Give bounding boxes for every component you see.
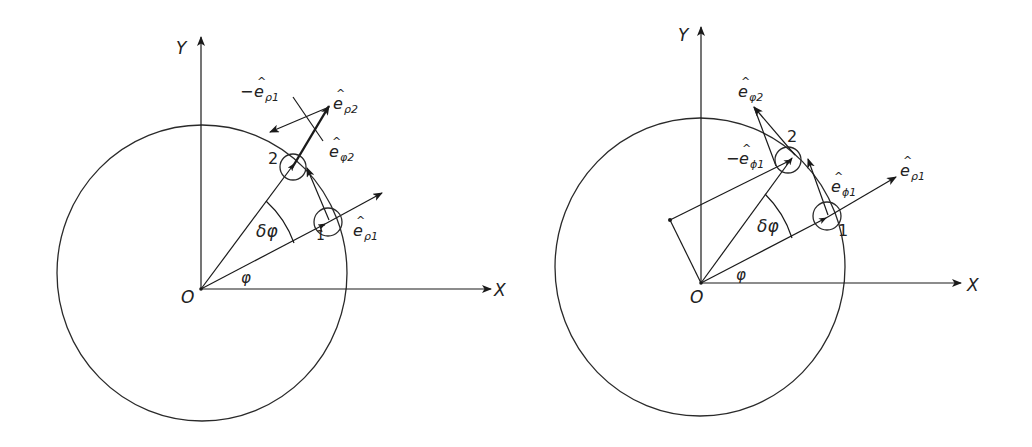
svg-text:ρ1: ρ1: [265, 91, 279, 104]
svg-text:−: −: [240, 82, 253, 101]
left-e-phi2-pointer-line: [293, 97, 323, 141]
svg-text:e: e: [900, 161, 910, 180]
svg-text:ϕ1: ϕ1: [842, 186, 856, 199]
svg-text:e: e: [831, 177, 841, 196]
svg-text:e: e: [739, 149, 749, 168]
left-e-rho2-label: ^ e ρ2: [333, 87, 358, 116]
left-point-2-label: 2: [268, 149, 278, 168]
svg-text:e: e: [329, 142, 339, 161]
svg-text:φ2: φ2: [340, 151, 354, 164]
svg-text:ρ2: ρ2: [344, 103, 358, 116]
right-trajectory-circle: [555, 118, 845, 416]
right-e-phi2-label: ^ e φ2: [738, 75, 763, 104]
left-e-rho1-label: ^ e ρ1: [353, 214, 378, 243]
right-panel: Y X O 2 1 δφ φ ^ e φ2: [555, 25, 979, 416]
svg-text:φ2: φ2: [749, 91, 763, 104]
left-x-axis-label: X: [493, 280, 506, 300]
left-e-phi2-label: ^ e φ2: [329, 135, 354, 164]
svg-text:−: −: [726, 149, 739, 168]
left-trajectory-circle: [57, 125, 347, 421]
right-e-phi1-vector: [808, 159, 828, 215]
right-phi-label: φ: [736, 266, 746, 284]
svg-text:ρ1: ρ1: [911, 170, 925, 183]
svg-text:e: e: [738, 82, 748, 101]
right-construction-line-1: [670, 220, 701, 283]
right-e-rho1-label: ^ e ρ1: [900, 154, 925, 183]
diagram-canvas: Y X O 2 δφ φ − ^ e ρ1: [0, 0, 1032, 447]
left-point-1-label: 1: [316, 227, 325, 243]
left-panel: Y X O 2 δφ φ − ^ e ρ1: [57, 37, 506, 421]
left-phi-label: φ: [241, 269, 251, 287]
right-origin-label: O: [690, 287, 703, 307]
right-point-2-marker: [775, 147, 801, 173]
left-minus-e-rho1-label: − ^ e ρ1: [240, 75, 279, 104]
svg-text:e: e: [333, 94, 343, 113]
svg-text:ρ1: ρ1: [364, 230, 378, 243]
left-y-axis-label: Y: [176, 38, 188, 58]
right-e-phi1-label: ^ e ϕ1: [831, 170, 856, 199]
right-delta-phi-label: δφ: [757, 216, 779, 236]
right-point-1-label: 1: [838, 221, 848, 240]
svg-text:ϕ1: ϕ1: [750, 158, 764, 171]
right-point-2-label: 2: [787, 127, 797, 146]
svg-text:e: e: [254, 82, 264, 101]
left-origin-label: O: [181, 287, 194, 307]
right-minus-e-phi1-label: − ^ e ϕ1: [726, 142, 764, 171]
svg-text:e: e: [353, 221, 363, 240]
left-delta-phi-label: δφ: [256, 221, 278, 241]
right-construction-line-2: [670, 160, 791, 220]
right-x-axis-label: X: [966, 275, 979, 295]
right-y-axis-label: Y: [678, 25, 690, 45]
unit-vector-diagram-figure: Y X O 2 δφ φ − ^ e ρ1: [0, 0, 1032, 447]
